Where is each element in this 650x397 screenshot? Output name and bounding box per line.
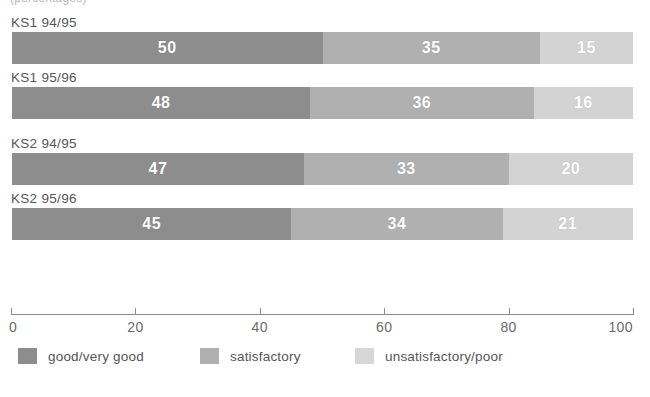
x-axis-tick-label: 80	[500, 319, 516, 335]
chart-row: KS2 95/96453421	[0, 190, 650, 240]
segment-value-label: 50	[158, 39, 177, 57]
legend-label: unsatisfactory/poor	[385, 349, 503, 364]
x-axis-tick	[384, 308, 385, 315]
segment-value-label: 34	[388, 215, 407, 233]
plot-area: KS1 94/95503515KS1 95/96483616KS2 94/954…	[0, 14, 650, 240]
legend-item: unsatisfactory/poor	[355, 348, 503, 364]
bar-segment-sat: 33	[304, 153, 509, 185]
x-axis-tick	[11, 308, 12, 315]
row-label: KS1 94/95	[0, 14, 650, 32]
bar-segment-unsat: 21	[503, 208, 633, 240]
x-axis-tick	[135, 308, 136, 315]
bar-segment-sat: 36	[310, 87, 534, 119]
segment-value-label: 45	[142, 215, 161, 233]
legend-swatch-sat	[200, 348, 219, 364]
segment-value-label: 48	[152, 94, 171, 112]
bar-segment-good: 45	[12, 208, 291, 240]
segment-value-label: 20	[561, 160, 580, 178]
segment-value-label: 16	[574, 94, 593, 112]
legend-swatch-unsat	[355, 348, 374, 364]
row-label: KS1 95/96	[0, 69, 650, 87]
legend-item: satisfactory	[200, 348, 301, 364]
x-axis-line	[11, 314, 633, 315]
segment-value-label: 35	[422, 39, 441, 57]
chart-legend: good/very goodsatisfactoryunsatisfactory…	[0, 348, 650, 378]
stacked-bar-chart: (percentages) KS1 94/95503515KS1 95/9648…	[0, 0, 650, 397]
stacked-bar: 483616	[12, 87, 633, 119]
chart-row: KS1 94/95503515	[0, 14, 650, 64]
legend-label: good/very good	[48, 349, 144, 364]
bar-segment-good: 47	[12, 153, 304, 185]
stacked-bar: 453421	[12, 208, 633, 240]
x-axis-tick-label: 100	[608, 319, 633, 335]
segment-value-label: 47	[149, 160, 168, 178]
bar-segment-unsat: 16	[534, 87, 633, 119]
segment-value-label: 21	[558, 215, 577, 233]
segment-value-label: 36	[412, 94, 431, 112]
chart-row: KS1 95/96483616	[0, 69, 650, 119]
legend-label: satisfactory	[230, 349, 301, 364]
row-label: KS2 94/95	[0, 135, 650, 153]
bar-segment-sat: 34	[291, 208, 502, 240]
bar-segment-sat: 35	[323, 32, 540, 64]
group-spacer	[0, 119, 650, 135]
x-axis-tick	[260, 308, 261, 315]
x-axis-tick	[509, 308, 510, 315]
legend-swatch-good	[18, 348, 37, 364]
x-axis-tick-label: 60	[376, 319, 392, 335]
legend-item: good/very good	[18, 348, 144, 364]
bar-segment-good: 50	[12, 32, 323, 64]
row-label: KS2 95/96	[0, 190, 650, 208]
x-axis: 020406080100	[0, 306, 650, 346]
x-axis-tick-label: 0	[9, 319, 17, 335]
x-axis-tick-label: 20	[127, 319, 143, 335]
segment-value-label: 33	[397, 160, 416, 178]
stacked-bar: 503515	[12, 32, 633, 64]
clipped-header-text: (percentages)	[10, 0, 87, 5]
chart-row: KS2 94/95473320	[0, 135, 650, 185]
x-axis-tick-label: 40	[252, 319, 268, 335]
stacked-bar: 473320	[12, 153, 633, 185]
x-axis-tick	[633, 308, 634, 315]
segment-value-label: 15	[577, 39, 596, 57]
bar-segment-unsat: 20	[509, 153, 633, 185]
bar-segment-unsat: 15	[540, 32, 633, 64]
bar-segment-good: 48	[12, 87, 310, 119]
